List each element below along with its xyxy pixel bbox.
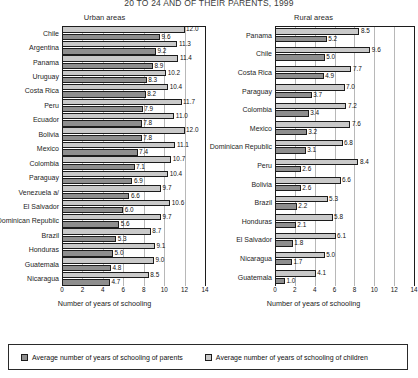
category-label: Bolivia bbox=[0, 127, 62, 141]
bar-value-label: 5.3 bbox=[329, 196, 338, 202]
bar-rect-parents bbox=[62, 193, 129, 199]
category-label: Costa Rica bbox=[209, 63, 275, 82]
x-tick-label: 0 bbox=[60, 287, 64, 293]
bar-children: 12.0 bbox=[62, 127, 209, 133]
bar-value-label: 5.0 bbox=[326, 252, 335, 258]
bar-value-label: 1.8 bbox=[294, 240, 303, 246]
bar-group-row: Guatemala4.11.0 bbox=[209, 268, 418, 287]
x-tick-label: 4 bbox=[313, 287, 317, 293]
bar-value-label: 6.8 bbox=[344, 140, 353, 146]
bar-value-label: 10.4 bbox=[170, 171, 182, 177]
bar-value-label: 9.6 bbox=[372, 47, 381, 53]
bar-rect-parents bbox=[62, 106, 143, 112]
bar-rect-parents bbox=[62, 265, 111, 271]
bar-parents: 5.0 bbox=[275, 54, 418, 60]
bar-group-row: Costa Rica7.74.9 bbox=[209, 63, 418, 82]
bar-rect-parents bbox=[62, 63, 153, 69]
bar-children: 9.7 bbox=[62, 214, 209, 220]
bar-rect-parents bbox=[275, 240, 293, 246]
bar-value-label: 6.9 bbox=[134, 178, 143, 184]
bar-rect-children bbox=[275, 84, 345, 90]
bar-group-row: Brazil8.75.3 bbox=[0, 228, 209, 242]
bar-rows-rural: Panama8.55.2Chile9.65.0Costa Rica7.74.9P… bbox=[209, 26, 418, 286]
bar-value-label: 7.4 bbox=[139, 149, 148, 155]
bar-group-row: Panama11.48.9 bbox=[0, 55, 209, 69]
bar-parents: 3.2 bbox=[275, 129, 418, 135]
bar-children: 6.6 bbox=[275, 177, 418, 183]
bar-value-label: 8.5 bbox=[150, 272, 159, 278]
bar-value-label: 11.3 bbox=[179, 41, 191, 47]
bar-rect-parents bbox=[62, 34, 160, 40]
bar-rect-children bbox=[275, 270, 316, 276]
bar-rect-parents bbox=[275, 185, 301, 191]
bar-parents: 5.3 bbox=[62, 236, 209, 242]
bar-value-label: 12.0 bbox=[186, 127, 198, 133]
category-label: Panama bbox=[0, 55, 62, 69]
bar-rect-children bbox=[275, 159, 358, 165]
bars-container: 6.62.6 bbox=[275, 175, 418, 194]
bar-rect-parents bbox=[62, 149, 138, 155]
bars-container: 7.03.7 bbox=[275, 82, 418, 101]
bar-value-label: 7.8 bbox=[143, 120, 152, 126]
x-tick-label: 12 bbox=[391, 287, 398, 293]
bar-parents: 8.3 bbox=[62, 77, 209, 83]
bar-parents: 4.9 bbox=[275, 73, 418, 79]
bar-group-row: Mexico7.63.2 bbox=[209, 119, 418, 138]
bar-value-label: 1.7 bbox=[293, 259, 302, 265]
bar-children: 10.4 bbox=[62, 84, 209, 90]
bar-parents: 5.2 bbox=[275, 36, 418, 42]
category-label: Paraguay bbox=[209, 82, 275, 101]
bars-container: 12.07.8 bbox=[62, 127, 209, 141]
bar-value-label: 8.9 bbox=[154, 63, 163, 69]
bar-parents: 6.9 bbox=[62, 178, 209, 184]
bar-rect-children bbox=[62, 272, 149, 278]
category-label: Brazil bbox=[209, 193, 275, 212]
bar-parents: 6.6 bbox=[62, 193, 209, 199]
bar-rect-parents bbox=[62, 279, 110, 285]
bar-value-label: 4.7 bbox=[112, 279, 121, 285]
bar-rect-parents bbox=[62, 178, 132, 184]
bars-container: 5.82.1 bbox=[275, 212, 418, 231]
bars-container: 10.46.9 bbox=[62, 170, 209, 184]
bar-value-label: 4.9 bbox=[325, 73, 334, 79]
bars-container: 9.15.0 bbox=[62, 243, 209, 257]
category-label: El Salvador bbox=[209, 231, 275, 250]
category-label: Colombia bbox=[0, 156, 62, 170]
category-label: Peru bbox=[0, 98, 62, 112]
bar-value-label: 10.4 bbox=[170, 84, 182, 90]
x-tick-label: 14 bbox=[201, 287, 208, 293]
category-label: Paraguay bbox=[0, 170, 62, 184]
panel-title-rural: Rural areas bbox=[209, 13, 418, 22]
category-label: Honduras bbox=[0, 243, 62, 257]
bar-value-label: 9.6 bbox=[162, 34, 171, 40]
bar-group-row: Colombia7.23.4 bbox=[209, 100, 418, 119]
bar-parents: 2.2 bbox=[275, 203, 418, 209]
bar-value-label: 3.1 bbox=[307, 147, 316, 153]
category-label: Honduras bbox=[209, 212, 275, 231]
bar-group-row: Nicaragua5.01.7 bbox=[209, 249, 418, 268]
bars-container: 5.32.2 bbox=[275, 193, 418, 212]
bar-parents: 6.0 bbox=[62, 207, 209, 213]
bar-parents: 3.4 bbox=[275, 110, 418, 116]
bars-container: 11.17.4 bbox=[62, 142, 209, 156]
legend-item-parents: Average number of years of schooling of … bbox=[21, 354, 183, 361]
bars-container: 9.76.6 bbox=[62, 185, 209, 199]
bar-rect-parents bbox=[62, 77, 147, 83]
bar-group-row: Panama8.55.2 bbox=[209, 26, 418, 45]
bar-group-row: El Salvador6.11.8 bbox=[209, 231, 418, 250]
bars-container: 11.77.9 bbox=[62, 98, 209, 112]
bar-rect-parents bbox=[62, 91, 146, 97]
bar-group-row: Costa Rica10.48.2 bbox=[0, 84, 209, 98]
bar-children: 5.8 bbox=[275, 214, 418, 220]
plot-area-urban: Chile12.09.6Argentina11.39.2Panama11.48.… bbox=[0, 26, 209, 308]
bar-children: 6.8 bbox=[275, 140, 418, 146]
bar-group-row: Nicaragua8.54.7 bbox=[0, 271, 209, 285]
category-label: Mexico bbox=[209, 119, 275, 138]
x-tick-label: 4 bbox=[101, 287, 105, 293]
bars-container: 11.07.8 bbox=[62, 113, 209, 127]
bars-container: 8.54.7 bbox=[62, 271, 209, 285]
panel-title-urban: Urban areas bbox=[0, 13, 209, 22]
bar-value-label: 2.6 bbox=[302, 185, 311, 191]
x-tick-label: 0 bbox=[273, 287, 277, 293]
bar-value-label: 5.0 bbox=[115, 250, 124, 256]
